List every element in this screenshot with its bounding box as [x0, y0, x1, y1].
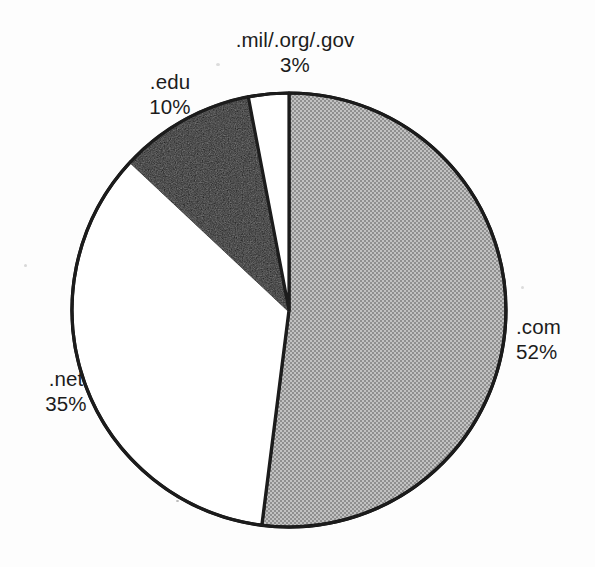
slice-label-edu: .edu 10% [122, 69, 218, 120]
slice-label-edu-value: 10% [122, 94, 218, 119]
slice-label-net: .net 35% [18, 366, 114, 417]
slice-label-edu-name: .edu [122, 69, 218, 94]
slice-label-net-name: .net [18, 366, 114, 391]
slice-label-com-name: .com [516, 314, 592, 339]
pie-chart-graphic [0, 0, 595, 567]
slice-label-com-value: 52% [516, 339, 592, 364]
slice-label-milorggov-name: .mil/.org/.gov [197, 27, 393, 52]
slice-label-milorggov-value: 3% [197, 52, 393, 77]
slice-label-milorggov: .mil/.org/.gov 3% [197, 27, 393, 78]
slice-label-com: .com 52% [516, 314, 592, 365]
slice-label-net-value: 35% [18, 391, 114, 416]
pie-slice-com[interactable] [262, 93, 506, 527]
pie-chart-figure: .mil/.org/.gov 3% .edu 10% .net 35% .com… [0, 0, 595, 567]
